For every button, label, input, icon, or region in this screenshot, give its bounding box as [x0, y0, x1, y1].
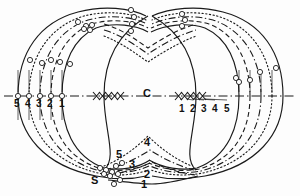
- data-marker: [107, 173, 112, 178]
- data-marker: [89, 22, 94, 27]
- data-marker: [101, 171, 106, 176]
- data-marker: [247, 77, 252, 82]
- data-marker: [87, 27, 92, 32]
- data-marker: [57, 59, 62, 64]
- bottom-curve-label-5: 5: [116, 149, 122, 160]
- data-marker: [179, 11, 184, 16]
- bottom-curve-label-4: 4: [144, 137, 150, 148]
- data-marker: [75, 19, 80, 24]
- left-axis-label-3: 3: [36, 99, 42, 109]
- data-marker: [119, 160, 124, 165]
- data-marker: [257, 69, 262, 74]
- right-label-tick-stems: [239, 70, 272, 92]
- marker-group-left-upper: [27, 19, 94, 66]
- top-cusp-4: [104, 36, 196, 62]
- south-label: S: [91, 175, 98, 186]
- left-axis-label-5: 5: [14, 99, 20, 109]
- bottom-curve-label-3: 3: [129, 159, 135, 170]
- left-axis-label-2: 2: [47, 99, 53, 109]
- right-axis-label-1: 1: [179, 104, 185, 114]
- marker-group-south-cluster: [97, 160, 124, 186]
- right-axis-label-3: 3: [201, 104, 207, 114]
- data-marker: [182, 17, 187, 22]
- data-marker: [115, 171, 120, 176]
- data-marker: [128, 7, 133, 12]
- data-marker: [81, 26, 86, 31]
- data-marker: [273, 65, 278, 70]
- data-marker: [48, 57, 53, 62]
- marker-group-top-centre: [128, 7, 187, 33]
- data-marker: [67, 61, 72, 66]
- data-marker: [27, 57, 32, 62]
- right-shell-5: [152, 8, 283, 96]
- right-shell-4: [152, 13, 272, 96]
- data-marker: [111, 181, 116, 186]
- right-lobe-shell-group: [149, 8, 283, 179]
- data-marker: [129, 21, 134, 26]
- data-marker: [97, 165, 102, 170]
- center-label: C: [143, 88, 151, 99]
- axis-cross-marks-left: [93, 92, 124, 100]
- data-marker: [113, 163, 118, 168]
- data-marker: [236, 79, 241, 84]
- bottom-curve-label-1: 1: [141, 179, 147, 190]
- data-marker: [179, 23, 184, 28]
- data-marker: [131, 14, 136, 19]
- right-axis-label-4: 4: [212, 104, 218, 114]
- figure-canvas: .ln{fill:none;stroke:#1a1a1a;} .s1{strok…: [0, 0, 300, 196]
- data-marker: [117, 177, 122, 182]
- data-marker: [128, 28, 133, 33]
- right-axis-label-2: 2: [190, 104, 196, 114]
- left-label-tick-stems: [18, 70, 62, 92]
- data-marker: [39, 60, 44, 65]
- left-axis-label-1: 1: [59, 99, 65, 109]
- left-axis-label-4: 4: [25, 99, 31, 109]
- right-axis-label-5: 5: [224, 104, 230, 114]
